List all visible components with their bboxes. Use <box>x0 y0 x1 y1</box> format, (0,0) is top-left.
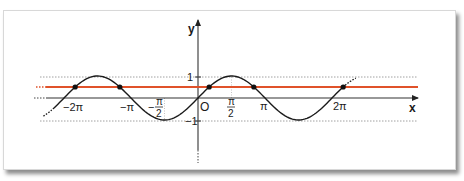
svg-text:π: π <box>228 96 235 107</box>
x-tick-label-2pi: 2π <box>333 100 347 112</box>
x-tick-label-half-pi: π 2 <box>227 96 235 119</box>
sine-graph: y x O 1 −1 −2π −π − π 2 π 2 π 2π <box>0 0 464 181</box>
svg-text:−: − <box>148 101 154 113</box>
svg-text:2: 2 <box>228 108 234 119</box>
intersection-point <box>207 84 212 89</box>
y-axis-label: y <box>188 22 195 36</box>
x-axis-label: x <box>409 101 416 115</box>
x-tick-label-minus-2pi: −2π <box>63 101 84 113</box>
y-tick-label-minus-1: −1 <box>185 115 198 127</box>
intersection-point <box>117 84 122 89</box>
svg-text:π: π <box>156 96 163 107</box>
sine-curve-dotted-right <box>345 78 356 85</box>
intersection-point <box>73 84 78 89</box>
origin-label: O <box>200 100 209 114</box>
sine-curve-dotted-left <box>43 108 54 116</box>
intersection-point <box>251 84 256 89</box>
x-tick-label-pi: π <box>260 100 268 112</box>
x-tick-label-minus-pi: −π <box>120 101 134 113</box>
y-tick-label-1: 1 <box>187 71 193 83</box>
intersection-point <box>341 84 346 89</box>
svg-text:2: 2 <box>156 108 162 119</box>
